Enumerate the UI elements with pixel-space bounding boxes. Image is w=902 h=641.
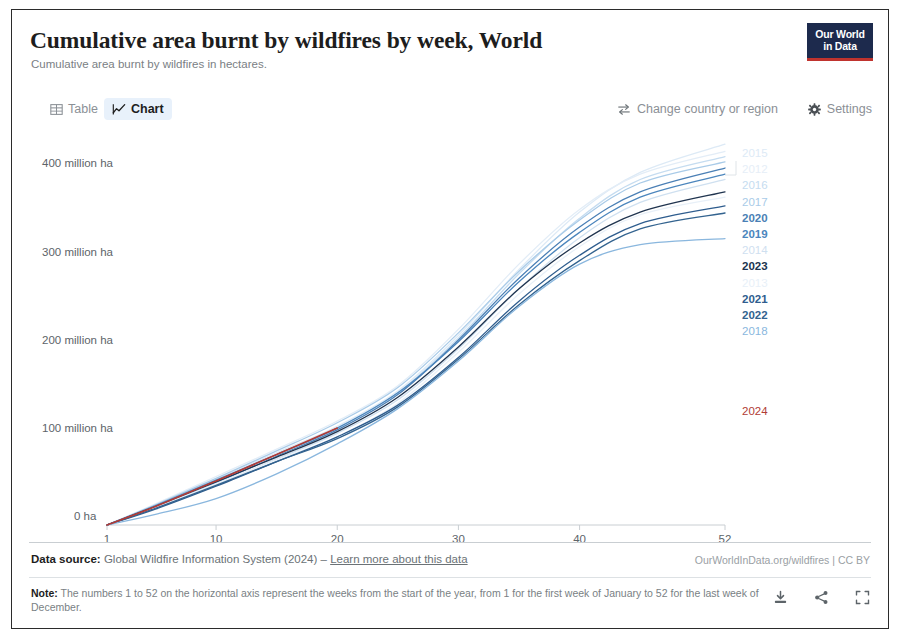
legend-entry-2021[interactable]: 2021 — [742, 293, 768, 306]
chart-subtitle: Cumulative area burnt by wildfires in he… — [31, 58, 267, 70]
series-line — [107, 239, 725, 525]
legend-entry-2014[interactable]: 2014 — [742, 244, 768, 257]
legend-entry-2022[interactable]: 2022 — [742, 309, 768, 322]
chart-card: Cumulative area burnt by wildfires by we… — [11, 9, 889, 629]
note-text: The numbers 1 to 52 on the horizontal ax… — [31, 587, 759, 613]
y-axis-tick: 300 million ha — [42, 246, 113, 258]
legend-entry-2013[interactable]: 2013 — [742, 277, 768, 290]
owid-logo[interactable]: Our World in Data — [807, 23, 873, 61]
legend-entry-2017[interactable]: 2017 — [742, 196, 768, 209]
series-line — [107, 213, 725, 525]
tab-table-label: Table — [68, 102, 98, 116]
y-axis-tick: 0 ha — [74, 510, 96, 522]
tab-chart-label: Chart — [131, 102, 164, 116]
logo-line-2: in Data — [807, 40, 873, 52]
data-source-dash: – — [321, 553, 327, 565]
series-line — [107, 144, 725, 525]
expand-icon[interactable] — [855, 590, 870, 605]
legend-entry-2023[interactable]: 2023 — [742, 260, 768, 273]
note-prefix: Note: — [31, 587, 58, 599]
y-axis-tick: 200 million ha — [42, 334, 113, 346]
chart-header: Cumulative area burnt by wildfires by we… — [12, 10, 888, 96]
legend-entry-2015[interactable]: 2015 — [742, 147, 768, 160]
chart-toolbar: Table Chart Change country or region — [12, 98, 888, 128]
series-line — [107, 151, 725, 525]
legend-entry-2016[interactable]: 2016 — [742, 179, 768, 192]
legend-connector — [725, 161, 736, 175]
change-country-label: Change country or region — [637, 102, 778, 116]
legend-entry-2018[interactable]: 2018 — [742, 325, 768, 338]
owid-url-label: OurWorldInData.org/wildfires | CC BY — [695, 554, 870, 566]
footer-actions — [773, 590, 870, 605]
data-source-text: Global Wildfire Information System (2024… — [104, 553, 317, 565]
settings-label: Settings — [827, 102, 872, 116]
tab-table[interactable]: Table — [42, 98, 106, 120]
download-icon[interactable] — [773, 590, 788, 605]
table-icon — [50, 103, 63, 116]
series-line — [107, 168, 725, 525]
logo-line-1: Our World — [807, 28, 873, 40]
legend-entry-2012[interactable]: 2012 — [742, 163, 768, 176]
data-source-line: Data source: Global Wildfire Information… — [31, 553, 468, 565]
note-divider — [29, 577, 871, 578]
legend-entry-2024[interactable]: 2024 — [742, 405, 768, 418]
data-source-prefix: Data source: — [31, 553, 101, 565]
series-line — [107, 192, 725, 525]
learn-more-link[interactable]: Learn more about this data — [330, 553, 467, 565]
page-title: Cumulative area burnt by wildfires by we… — [30, 27, 542, 54]
change-country-button[interactable]: Change country or region — [617, 102, 778, 116]
series-line — [107, 157, 725, 525]
y-axis-tick: 100 million ha — [42, 422, 113, 434]
settings-button[interactable]: Settings — [808, 102, 872, 116]
series-line — [107, 162, 725, 525]
chart-note: Note: The numbers 1 to 52 on the horizon… — [31, 586, 771, 614]
tab-chart[interactable]: Chart — [104, 98, 172, 120]
chart-plot: 0 ha100 million ha200 million ha300 mill… — [12, 128, 889, 542]
chart-footer: Data source: Global Wildfire Information… — [12, 542, 888, 629]
legend-entry-2019[interactable]: 2019 — [742, 228, 768, 241]
series-line — [107, 206, 725, 525]
legend-entry-2020[interactable]: 2020 — [742, 212, 768, 225]
footer-divider — [29, 542, 871, 543]
swap-arrows-icon — [617, 103, 631, 116]
share-icon[interactable] — [814, 590, 829, 605]
y-axis-tick: 400 million ha — [42, 157, 113, 169]
gear-icon — [808, 103, 821, 116]
chart-icon — [112, 103, 126, 116]
